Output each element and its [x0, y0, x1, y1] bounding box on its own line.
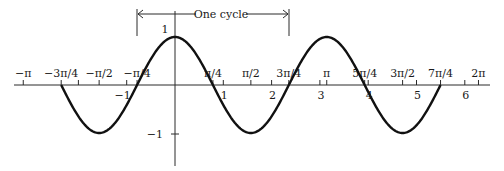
x-pi-label: −π/2 [86, 67, 113, 80]
x-int-label: 6 [462, 89, 469, 102]
x-pi-label: 2π [471, 67, 485, 80]
x-pi-label: 3π/2 [390, 67, 415, 80]
x-pi-label: −π [15, 67, 31, 80]
one-cycle-bracket: One cycle [137, 8, 289, 36]
x-ticks [23, 80, 478, 85]
cosine-graph: 1 −1 −π−3π/4−π/2−π/4π/4π/23π/4π5π/43π/27… [0, 0, 504, 171]
y-label-minus-1: −1 [147, 128, 163, 141]
x-int-label: 2 [269, 89, 276, 102]
one-cycle-label: One cycle [194, 8, 249, 21]
y-label-1: 1 [162, 23, 169, 36]
x-int-label: 3 [317, 89, 324, 102]
x-pi-label: −3π/4 [44, 67, 78, 80]
x-pi-label: π/2 [242, 67, 260, 80]
x-int-label: 5 [414, 89, 421, 102]
x-pi-label: π [323, 67, 330, 80]
x-pi-label: 7π/4 [428, 67, 453, 80]
